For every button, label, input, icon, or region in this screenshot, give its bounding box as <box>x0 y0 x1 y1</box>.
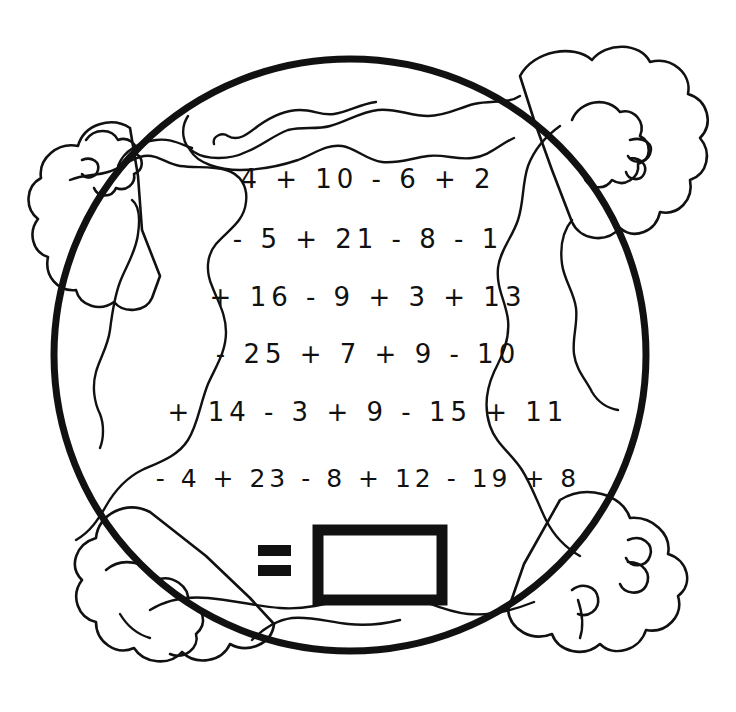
cloud-bottom-left <box>75 508 274 662</box>
worksheet-page: 4 + 10 - 6 + 2 - 5 + 21 - 8 - 1 + 16 - 9… <box>0 0 736 712</box>
cloud-top-right <box>520 47 708 238</box>
globe-illustration <box>0 0 736 712</box>
continent-east-inner-river <box>561 220 618 410</box>
equals-sign <box>258 545 291 576</box>
answer-box[interactable] <box>318 530 442 600</box>
continent-north-inner-line <box>214 102 376 144</box>
